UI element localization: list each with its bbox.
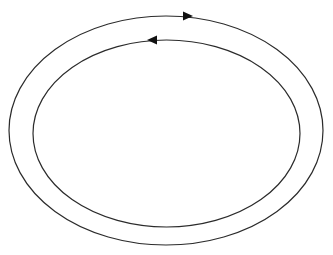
concentric-loops-diagram [0, 0, 333, 255]
inner-arrow-left-icon [147, 36, 157, 45]
diagram-canvas [0, 0, 333, 255]
outer-loop [9, 16, 323, 245]
outer-arrow-right-icon [183, 12, 193, 21]
inner-loop [33, 40, 300, 227]
